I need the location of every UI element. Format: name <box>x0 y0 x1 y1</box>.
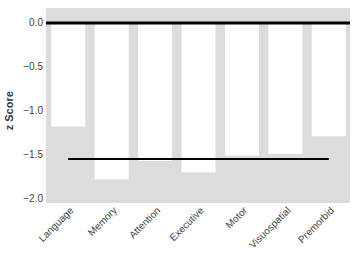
x-tick-label-memory: Memory <box>86 205 119 238</box>
bar-memory <box>95 23 129 179</box>
y-tick-label: −1.5 <box>23 149 43 160</box>
bar-executive <box>182 23 216 172</box>
x-tick-label-motor: Motor <box>223 204 249 230</box>
bar-attention <box>138 23 172 161</box>
x-tick-label-visuospatial: Visuospatial <box>247 205 293 251</box>
y-axis: 0.0−0.5−1.0−1.5−2.0 <box>23 17 43 204</box>
x-axis: LanguageMemoryAttentionExecutiveMotorVis… <box>36 204 336 250</box>
bar-premorbid <box>312 23 346 136</box>
y-tick-label: −0.5 <box>23 61 43 72</box>
y-tick-label: −2.0 <box>23 193 43 204</box>
y-tick-label: 0.0 <box>29 17 43 28</box>
x-tick-label-premorbid: Premorbid <box>296 205 336 245</box>
bar-chart: 0.0−0.5−1.0−1.5−2.0 z Score LanguageMemo… <box>0 0 359 257</box>
x-tick-label-executive: Executive <box>167 204 206 243</box>
y-axis-label: z Score <box>3 91 15 130</box>
y-tick-label: −1.0 <box>23 105 43 116</box>
bar-language <box>51 23 85 127</box>
bar-visuospatial <box>268 23 302 154</box>
x-tick-label-language: Language <box>36 204 76 244</box>
x-tick-label-attention: Attention <box>127 205 163 241</box>
bar-motor <box>225 23 259 156</box>
